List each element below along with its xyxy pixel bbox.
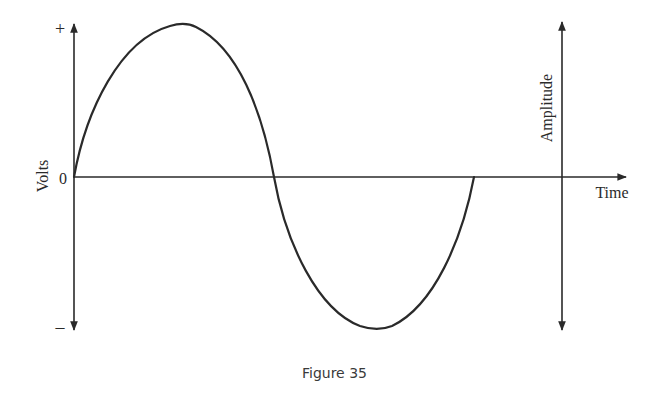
sine-wave-diagram: + 0 – Volts Amplitude Time xyxy=(0,0,669,401)
zero-mark: 0 xyxy=(59,170,67,187)
figure-caption: Figure 35 xyxy=(0,365,669,381)
volts-label: Volts xyxy=(34,160,51,193)
time-label: Time xyxy=(595,184,628,201)
plus-mark: + xyxy=(55,19,65,39)
amplitude-label: Amplitude xyxy=(538,74,556,142)
minus-mark: – xyxy=(55,317,66,337)
